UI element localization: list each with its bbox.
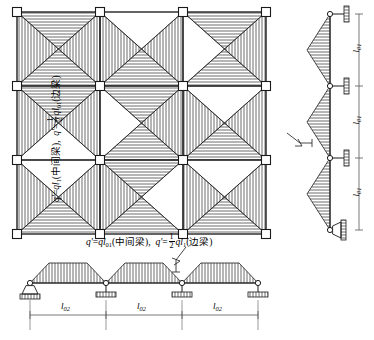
triangular-load <box>307 86 330 158</box>
caption-v-eq2: = <box>51 124 61 129</box>
leader-line-right <box>287 133 300 143</box>
caption-h-sep: , <box>148 237 150 247</box>
right-supports <box>327 6 349 240</box>
support-ground <box>172 292 192 297</box>
column-node <box>96 82 105 91</box>
engineering-figure: q'=ql01(中间梁), q'=12ql1(边梁) q'=ql1(中间梁), … <box>0 0 374 340</box>
support-ground <box>248 292 268 297</box>
column-node <box>262 230 271 239</box>
tributary-panel-r1c1 <box>100 86 183 160</box>
bottom-trapezoidal-loads <box>30 263 258 283</box>
caption-v-fraction: 12 <box>47 117 64 123</box>
caption-horizontal: q'=ql01(中间梁), q'=12ql1(边梁) <box>86 233 212 250</box>
column-node <box>13 230 22 239</box>
caption-v-note2: (边梁) <box>51 75 61 101</box>
column-node <box>96 8 105 17</box>
roller-support <box>103 280 108 285</box>
right-dim-label-2: l01 <box>351 116 361 125</box>
roller-support <box>255 280 260 285</box>
pin-support <box>327 227 332 232</box>
column-node <box>13 156 22 165</box>
column-node <box>262 156 271 165</box>
bottom-dim-label-3: l02 <box>213 301 222 311</box>
column-node <box>13 82 22 91</box>
caption-h-expr1: ql <box>98 237 105 247</box>
tributary-panel-r0c2 <box>183 12 266 86</box>
column-node <box>13 8 22 17</box>
column-node <box>179 8 188 17</box>
column-node <box>262 8 271 17</box>
caption-v-eq1: = <box>51 190 61 195</box>
caption-h-sub1: 01 <box>106 241 112 248</box>
caption-v-note1: (中间梁) <box>51 143 61 179</box>
caption-v-q2: q' <box>51 129 61 136</box>
caption-h-frac-den: 2 <box>169 241 175 250</box>
column-node <box>179 156 188 165</box>
support-ground <box>96 292 116 297</box>
bottom-elevation <box>20 263 268 330</box>
roller-support <box>327 155 332 160</box>
roller-support <box>327 11 332 16</box>
support-wall <box>344 78 349 94</box>
caption-h-note1: (中间梁) <box>112 237 148 247</box>
right-triangular-loads <box>307 14 330 230</box>
column-node <box>96 156 105 165</box>
caption-h-frac-num: 1 <box>169 233 175 241</box>
roller-support <box>179 280 184 285</box>
tributary-panel-r2c2 <box>183 160 266 234</box>
right-dim-label-3: l01 <box>351 188 361 197</box>
support-wall <box>344 150 349 166</box>
trapezoidal-load <box>182 263 258 283</box>
caption-v-sub2: 01 <box>55 102 62 108</box>
caption-h-q1: q' <box>86 237 93 247</box>
pin-support <box>27 280 32 285</box>
bottom-dim-label-2: l02 <box>137 301 146 311</box>
caption-v-sub1: 1 <box>55 179 62 182</box>
caption-h-sub2: 1 <box>183 241 186 248</box>
caption-v-sep: , <box>51 140 61 142</box>
triangular-load <box>307 158 330 230</box>
caption-v-frac-num: 1 <box>47 117 55 123</box>
caption-v-expr1: ql <box>51 182 61 189</box>
caption-h-fraction: 12 <box>169 233 175 250</box>
caption-v-frac-den: 2 <box>56 117 65 123</box>
right-dim-label-1: l01 <box>351 44 361 53</box>
triangular-load <box>307 14 330 86</box>
support-wall <box>344 6 349 22</box>
caption-v-expr2: ql <box>51 108 61 115</box>
support-wall <box>341 220 346 240</box>
column-node <box>179 82 188 91</box>
roller-support <box>327 83 332 88</box>
tributary-panel-r2c1 <box>100 160 183 234</box>
trapezoidal-load <box>106 263 182 283</box>
column-node <box>262 82 271 91</box>
tributary-panel-r0c1 <box>100 12 183 86</box>
caption-h-note2: (边梁) <box>186 237 212 247</box>
support-ground <box>20 294 40 299</box>
caption-vertical: q'=ql1(中间梁), q'=12ql01(边梁) <box>47 44 64 234</box>
caption-h-eq2: = <box>162 237 167 247</box>
caption-v-q1: q' <box>51 195 61 202</box>
caption-h-expr2: ql <box>176 237 183 247</box>
tributary-panel-r1c2 <box>183 86 266 160</box>
bottom-dim-label-1: l02 <box>61 301 70 311</box>
trapezoidal-load <box>30 263 106 283</box>
